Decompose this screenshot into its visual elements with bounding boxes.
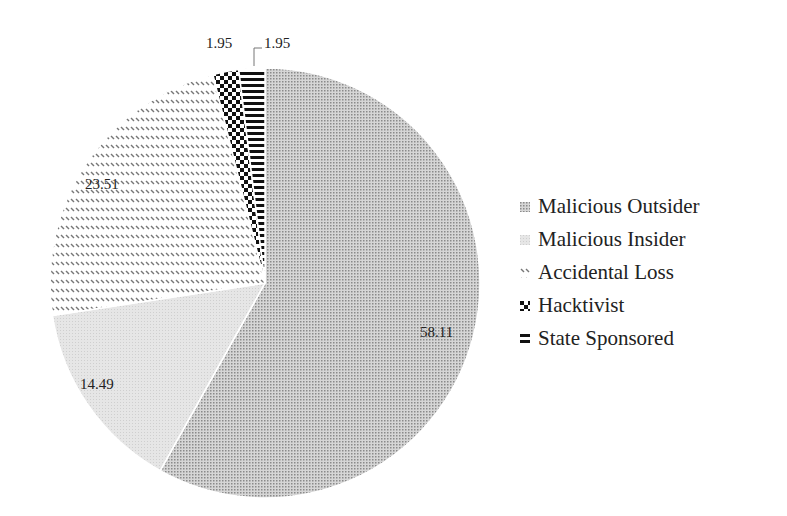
data-label: 14.49: [80, 376, 114, 392]
legend-label: Hacktivist: [538, 293, 624, 318]
accidental-loss-swatch-icon: [520, 268, 530, 278]
hacktivist-swatch-icon: [520, 301, 530, 311]
legend-label: Accidental Loss: [538, 260, 674, 285]
state-sponsored-swatch-icon: [520, 334, 530, 344]
legend-item-state-sponsored: State Sponsored: [520, 322, 700, 355]
malicious-insider-swatch-icon: [520, 235, 530, 245]
legend-item-accidental-loss: Accidental Loss: [520, 256, 700, 289]
legend-item-malicious-outsider: Malicious Outsider: [520, 190, 700, 223]
leader-line: [254, 48, 262, 66]
legend-label: Malicious Insider: [538, 227, 686, 252]
data-label: 1.95: [264, 35, 290, 51]
legend-item-hacktivist: Hacktivist: [520, 289, 700, 322]
legend-label: State Sponsored: [538, 326, 674, 351]
data-label: 58.11: [420, 324, 453, 340]
legend-item-malicious-insider: Malicious Insider: [520, 223, 700, 256]
data-label: 1.95: [206, 35, 232, 51]
data-label: 23.51: [85, 176, 119, 192]
legend: Malicious Outsider Malicious Insider Acc…: [520, 190, 700, 355]
malicious-outsider-swatch-icon: [520, 202, 530, 212]
legend-label: Malicious Outsider: [538, 194, 700, 219]
